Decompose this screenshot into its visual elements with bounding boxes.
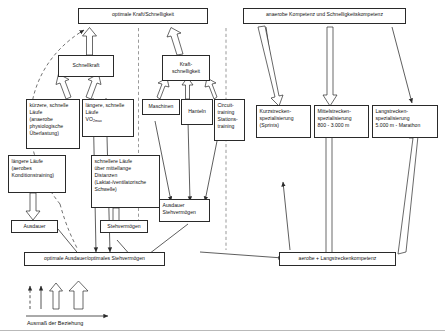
node-line: Kurzstrecken- — [260, 108, 308, 115]
node-schnellere-laeufe-mittellange[interactable]: schnellere Läufe über mittellange Distan… — [91, 155, 160, 208]
node-line: Hanteln — [185, 108, 210, 115]
node-laengere-laeufe-aerob[interactable]: längere Läufe (aerobes Konditionstrainin… — [8, 155, 66, 193]
node-line: Stehvermögen — [163, 209, 207, 216]
node-line: (aerobes — [12, 165, 63, 172]
node-line: training — [218, 123, 242, 130]
node-line: Ausdauer — [15, 223, 55, 230]
node-line: Stehvermögen — [104, 223, 145, 230]
node-langstrecken-spezialisierung[interactable]: Langstrecken- spezialisierung 5.000 m - … — [372, 105, 438, 138]
node-line: längere, schnelle — [86, 102, 131, 109]
node-vo2max: VO2max — [86, 116, 131, 124]
node-line: training — [218, 109, 242, 116]
node-laengere-schnelle-laeufe[interactable]: längere, schnelle Läufe VO2max — [82, 99, 134, 137]
legend-caption: Ausmaß der Beziehung — [27, 320, 83, 326]
node-line: Überlastung) — [30, 130, 77, 137]
node-line: anaerobe Kompetenz und Schnelligkeitskom… — [247, 11, 403, 18]
node-line: optimale Kraft/Schnelligkeit — [82, 11, 205, 18]
node-line: Maschinen — [146, 103, 177, 110]
node-kurzstrecken-spezialisierung[interactable]: Kurzstrecken- spezialisierung (Sprints) — [256, 105, 311, 138]
node-optimale-kraft-schnelligkeit[interactable]: optimale Kraft/Schnelligkeit — [78, 8, 208, 24]
node-maschinen[interactable]: Maschinen — [142, 99, 180, 115]
node-line: Schwelle) — [95, 186, 157, 193]
node-line: Mittelstrecken- — [318, 108, 366, 115]
node-ausdauer[interactable]: Ausdauer — [11, 220, 58, 233]
legend-thin-markers — [26, 286, 108, 316]
node-optimale-ausdauer-stehvermoegen[interactable]: optimale Ausdauer/optimales Stehvermögen — [24, 252, 165, 266]
node-line: Kraft- — [166, 61, 207, 68]
node-line: Konditionstraining) — [12, 172, 63, 179]
node-anaerobe-kompetenz[interactable]: anaerobe Kompetenz und Schnelligkeitskom… — [243, 8, 406, 24]
node-line: Schnellkraft — [62, 62, 111, 69]
node-line: aerobe + Langstreckenkompetenz — [283, 255, 393, 262]
node-line: Distanzen — [95, 172, 157, 179]
node-line: 800 - 3.000 m — [318, 122, 366, 129]
node-line: physiologische — [30, 123, 77, 130]
node-line: Circuit- — [218, 102, 242, 109]
node-line: (Sprints) — [260, 122, 308, 129]
node-line: spezialisierung — [260, 115, 308, 122]
page-bottom-rule — [0, 330, 445, 331]
node-line: kürzere, schnelle — [30, 102, 77, 109]
node-schnellkraft[interactable]: Schnellkraft — [58, 55, 114, 77]
node-line: Ausdauer — [163, 202, 207, 209]
node-line: Läufe — [30, 109, 77, 116]
node-kuerzere-schnelle-laeufe[interactable]: kürzere, schnelle Läufe (anaerobe physio… — [26, 99, 80, 149]
diagram-connectors-layer — [0, 0, 445, 333]
node-line: schnelligkeit — [166, 68, 207, 75]
node-kraftschnelligkeit[interactable]: Kraft- schnelligkeit — [162, 55, 210, 81]
node-line: spezialisierung — [318, 115, 366, 122]
node-mittelstrecken-spezialisierung[interactable]: Mittelstrecken- spezialisierung 800 - 3.… — [314, 105, 369, 138]
node-ausdauer-stehvermoegen[interactable]: Ausdauer Stehvermögen — [159, 199, 210, 222]
node-line: spezialisierung — [376, 115, 435, 122]
node-line: (Laktat-/ventilatorische — [95, 179, 157, 186]
node-line: Stations- — [218, 116, 242, 123]
node-line: längere Läufe — [12, 158, 63, 165]
dashed-descending-relation — [60, 204, 78, 250]
node-line: 5.000 m - Marathon — [376, 122, 435, 129]
node-aerobe-langstreckenkompetenz[interactable]: aerobe + Langstreckenkompetenz — [279, 252, 396, 266]
node-line: schnellere Läufe — [95, 158, 157, 165]
node-line: (anaerobe — [30, 116, 77, 123]
node-stehvermoegen[interactable]: Stehvermögen — [100, 220, 148, 233]
node-line: Läufe — [86, 109, 131, 116]
node-line: über mittellange — [95, 165, 157, 172]
node-line: Langstrecken- — [376, 108, 435, 115]
node-hanteln[interactable]: Hanteln — [181, 99, 213, 125]
node-circuittraining[interactable]: Circuit- training Stations- training — [214, 99, 245, 141]
node-line: optimale Ausdauer/optimales Stehvermögen — [28, 255, 162, 262]
diagram-canvas: optimale Kraft/Schnelligkeit anaerobe Ko… — [0, 0, 445, 333]
